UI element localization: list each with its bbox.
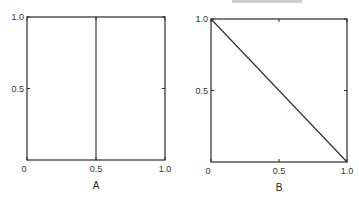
panel-label: B [276, 182, 283, 193]
y-tick-label: 0.5 [11, 84, 24, 94]
figure: 0.51.000.51.0A0.51.000.51.0B [0, 0, 359, 200]
panel-a: 0.51.000.51.0A [11, 12, 171, 191]
x-tick-label: 0 [21, 164, 26, 174]
x-tick-label: 1.0 [341, 166, 354, 176]
x-tick-label: 1.0 [159, 164, 172, 174]
series-line [211, 19, 347, 162]
x-tick-label: 0.5 [90, 164, 103, 174]
panel-b: 0.51.000.51.0B [195, 14, 353, 193]
header-text-fragment [232, 0, 302, 3]
x-tick-label: 0 [205, 166, 210, 176]
x-tick-label: 0.5 [273, 166, 286, 176]
y-tick-label: 0.5 [195, 86, 208, 96]
panel-label: A [93, 180, 100, 191]
y-tick-label: 1.0 [195, 14, 208, 24]
y-tick-label: 1.0 [11, 12, 24, 22]
